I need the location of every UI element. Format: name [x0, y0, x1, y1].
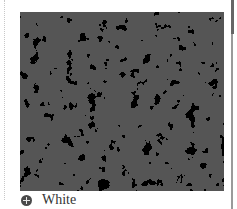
color-swatch-image[interactable]: [20, 12, 224, 191]
color-label: White: [42, 192, 76, 208]
color-option-white[interactable]: White: [20, 192, 76, 208]
dotted-divider: [4, 0, 5, 200]
granite-texture: [20, 12, 224, 191]
scrollbar-thumb[interactable]: [231, 0, 234, 34]
plus-circle-icon[interactable]: [21, 195, 32, 206]
